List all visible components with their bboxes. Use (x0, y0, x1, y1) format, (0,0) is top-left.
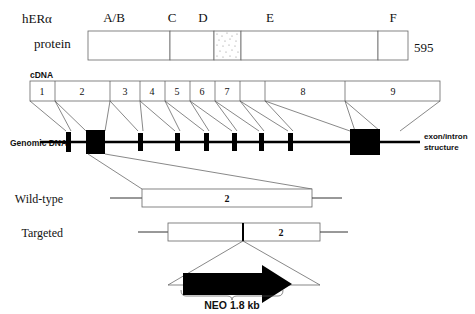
domain-label-f: F (389, 10, 396, 25)
genomic-exon-5 (204, 133, 209, 151)
cdna-exon-6: 6 (200, 86, 205, 97)
figure-canvas: hERα protein A/B C D E F 595 cDNA (0, 0, 475, 314)
wildtype-row-label: Wild-type (15, 192, 63, 206)
cdna-exon-4: 4 (150, 86, 155, 97)
hera-gene-structure-diagram: hERα protein A/B C D E F 595 cDNA (0, 0, 475, 314)
genomic-exon-1 (66, 132, 71, 152)
cdna-row-label: cDNA (30, 70, 53, 80)
wildtype-allele: 2 (110, 189, 342, 207)
genomic-exon-7 (259, 133, 264, 151)
cdna-exon-2: 2 (80, 86, 85, 97)
cdna-exon-5: 5 (175, 86, 180, 97)
neo-cassette-label: NEO 1.8 kb (204, 299, 259, 311)
targeted-exon2-label: 2 (279, 227, 284, 238)
gene-title: hERα (22, 11, 52, 26)
protein-domain-f (378, 31, 408, 60)
cdna-exon-8: 8 (301, 86, 306, 97)
domain-label-c: C (168, 10, 177, 25)
targeted-row-label: Targeted (21, 226, 63, 240)
cdna-exon-9: 9 (391, 86, 396, 97)
targeted-allele: 2 (138, 223, 348, 241)
cdna-exon-7: 7 (225, 86, 230, 97)
genomic-dna-track (40, 129, 420, 155)
domain-label-ab: A/B (103, 10, 125, 25)
protein-row-label: protein (34, 36, 71, 51)
domain-label-e: E (266, 10, 274, 25)
neo-cassette-arrow (183, 265, 292, 303)
cdna-exon-track: 1 2 3 4 5 6 7 8 9 (30, 81, 440, 101)
genomic-exon-9 (350, 129, 380, 155)
protein-domain-e (241, 31, 378, 60)
cdna-genomic-connectors (30, 101, 440, 131)
genomic-exon-6 (232, 133, 237, 151)
protein-length-label: 595 (414, 40, 434, 55)
genomic-exon-8 (288, 133, 293, 151)
exon-intron-label-line2: structure (424, 143, 459, 152)
wildtype-exon2-label: 2 (225, 193, 230, 204)
protein-domain-ab (88, 31, 170, 60)
exon-intron-label-line1: exon/intron (424, 132, 468, 141)
domain-label-d: D (198, 10, 207, 25)
genomic-exon-4 (175, 133, 180, 151)
genomic-exon-3 (138, 133, 143, 151)
genomic-to-wildtype-connectors (88, 154, 312, 189)
cdna-exon-1: 1 (40, 86, 45, 97)
protein-domain-d (214, 31, 241, 60)
genomic-exon-2 (86, 130, 105, 154)
cdna-exon-3: 3 (123, 86, 128, 97)
neo-arrow-shape (183, 265, 292, 303)
protein-domain-c (170, 31, 214, 60)
cdna-track-outline (30, 81, 440, 101)
